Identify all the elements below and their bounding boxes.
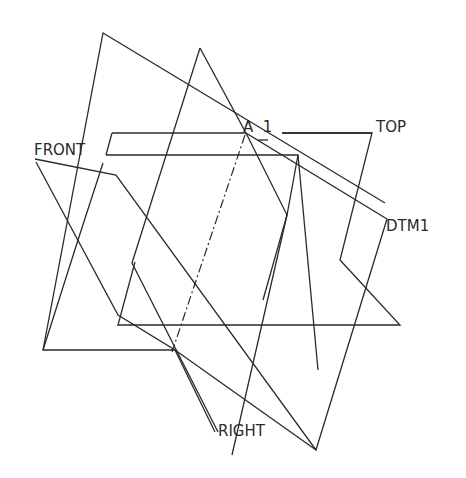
axis-a1-label: A 1: [243, 120, 272, 135]
top-plane-left: [106, 133, 112, 155]
right-label: RIGHT: [218, 424, 265, 439]
datum-planes-drawing: [0, 0, 466, 478]
top-label: TOP: [376, 120, 406, 135]
dtm1-label: DTM1: [386, 219, 429, 234]
right-plane: [132, 48, 218, 432]
axis-a1: [172, 135, 245, 352]
front-label: FRONT: [34, 143, 85, 158]
right-plane-inner: [232, 133, 287, 455]
top-plane: [118, 133, 400, 325]
dtm1-plane-lower: [35, 159, 387, 450]
datum-planes-diagram: FRONT TOP DTM1 RIGHT A 1: [0, 0, 466, 478]
front-plane: [106, 155, 318, 370]
